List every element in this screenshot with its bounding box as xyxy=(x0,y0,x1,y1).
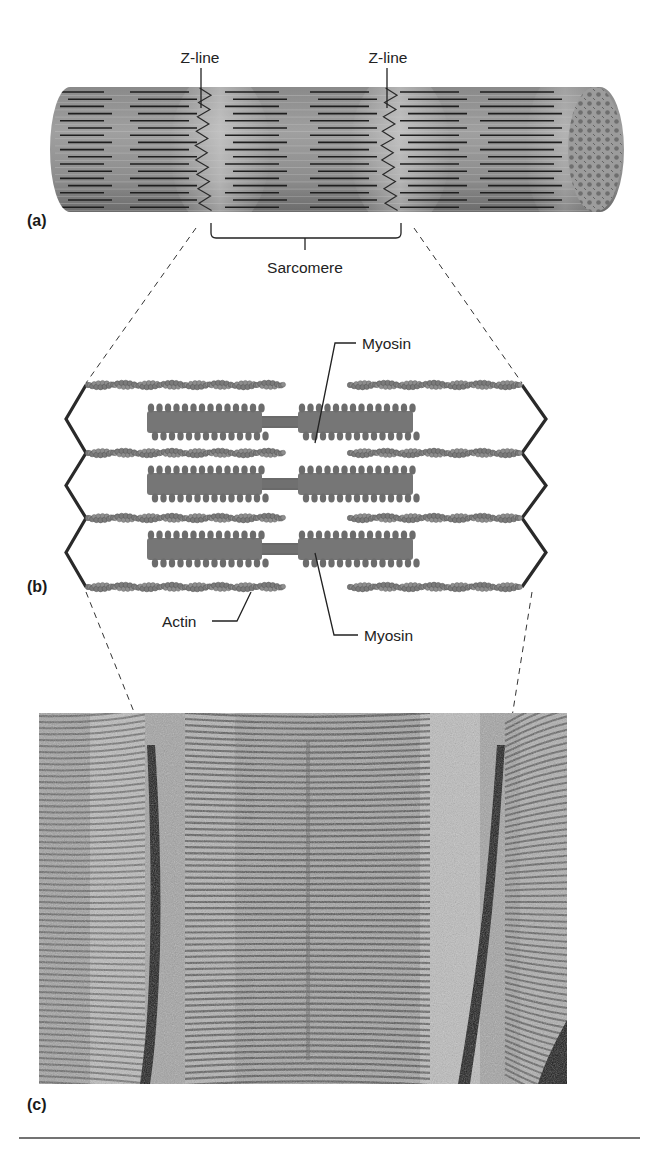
myosin-head xyxy=(160,493,166,502)
myosin-head xyxy=(250,465,256,474)
myosin-head xyxy=(320,431,326,440)
myosin-head xyxy=(182,465,188,474)
myosin-head xyxy=(237,431,243,440)
myosin-head xyxy=(409,530,415,539)
myosin-head xyxy=(384,403,390,412)
myosin-head xyxy=(413,493,419,502)
myosin-head xyxy=(350,403,356,412)
myosin-head xyxy=(220,493,226,502)
myosin-head xyxy=(194,493,200,502)
myosin-head xyxy=(152,431,158,440)
myosin-head xyxy=(401,465,407,474)
myosin-head xyxy=(379,493,385,502)
myosin-filament xyxy=(147,465,420,502)
myosin-head xyxy=(199,403,205,412)
actin-bead xyxy=(518,585,523,590)
myosin-head xyxy=(148,530,154,539)
panel-a: Z-line Z-line Sarcomere (a) xyxy=(27,49,624,276)
myosin-bare-zone xyxy=(262,480,298,488)
myosin-head xyxy=(254,431,260,440)
myosin-head xyxy=(345,493,351,502)
myosin-head xyxy=(401,530,407,539)
panel-b: Myosin Myosin Actin (b) xyxy=(27,335,546,644)
myosin-head xyxy=(358,403,364,412)
myosin-head xyxy=(362,558,368,567)
myosin-label-top: Myosin xyxy=(362,335,411,352)
myosin-head xyxy=(324,465,330,474)
myosin-head xyxy=(367,403,373,412)
muscle-fibril-cylinder xyxy=(50,70,624,230)
myosin-head-zone xyxy=(147,538,262,560)
myosin-head xyxy=(233,465,239,474)
actin-filament xyxy=(85,448,285,458)
myosin-head xyxy=(182,530,188,539)
myosin-head xyxy=(190,403,196,412)
myosin-head xyxy=(186,493,192,502)
myosin-head xyxy=(148,465,154,474)
myosin-head xyxy=(237,493,243,502)
myosin-head xyxy=(367,530,373,539)
myosin-filaments xyxy=(147,403,420,567)
myosin-head xyxy=(211,431,217,440)
myosin-head xyxy=(409,403,415,412)
myosin-head xyxy=(207,530,213,539)
myosin-head xyxy=(250,530,256,539)
myosin-head xyxy=(384,530,390,539)
myosin-head xyxy=(233,403,239,412)
myosin-head xyxy=(194,431,200,440)
myosin-head xyxy=(173,403,179,412)
myosin-head xyxy=(367,465,373,474)
myosin-head xyxy=(245,493,251,502)
zoom-guide-left xyxy=(86,228,196,383)
myosin-head xyxy=(333,530,339,539)
myosin-head xyxy=(396,493,402,502)
myosin-head xyxy=(203,431,209,440)
actin-filament xyxy=(347,513,522,523)
myosin-head xyxy=(148,403,154,412)
myosin-head xyxy=(254,493,260,502)
myosin-head xyxy=(362,493,368,502)
myosin-head xyxy=(165,403,171,412)
myosin-head xyxy=(224,465,230,474)
actin-bead xyxy=(518,383,523,388)
zoom-guide-right xyxy=(414,228,522,383)
z-line-label-right: Z-line xyxy=(369,49,408,66)
myosin-head xyxy=(220,558,226,567)
myosin-head xyxy=(156,403,162,412)
myosin-bare-zone xyxy=(262,545,298,553)
myosin-head xyxy=(333,403,339,412)
actin-filament xyxy=(347,582,522,592)
myosin-head xyxy=(405,558,411,567)
myosin-head xyxy=(375,403,381,412)
myosin-head xyxy=(262,431,268,440)
myosin-head xyxy=(316,530,322,539)
z-line-label-left: Z-line xyxy=(181,49,220,66)
myosin-head xyxy=(186,558,192,567)
myosin-head xyxy=(358,530,364,539)
myosin-head xyxy=(233,530,239,539)
myosin-head xyxy=(388,431,394,440)
myosin-head xyxy=(216,403,222,412)
myosin-head xyxy=(190,530,196,539)
myosin-head xyxy=(396,558,402,567)
myosin-head xyxy=(224,403,230,412)
myosin-head xyxy=(254,558,260,567)
myosin-head xyxy=(379,431,385,440)
myosin-head xyxy=(388,493,394,502)
myosin-head xyxy=(152,493,158,502)
myosin-head xyxy=(207,465,213,474)
actin-filament xyxy=(85,582,285,592)
myosin-head xyxy=(328,558,334,567)
myosin-head xyxy=(388,558,394,567)
myosin-head xyxy=(401,403,407,412)
myosin-head xyxy=(299,465,305,474)
myosin-head xyxy=(177,431,183,440)
myosin-head xyxy=(245,558,251,567)
myosin-head xyxy=(371,558,377,567)
myosin-head xyxy=(392,530,398,539)
myosin-head xyxy=(241,403,247,412)
myosin-head xyxy=(328,431,334,440)
panel-label-a: (a) xyxy=(27,212,47,229)
myosin-head-zone xyxy=(147,411,262,433)
myosin-head xyxy=(203,493,209,502)
